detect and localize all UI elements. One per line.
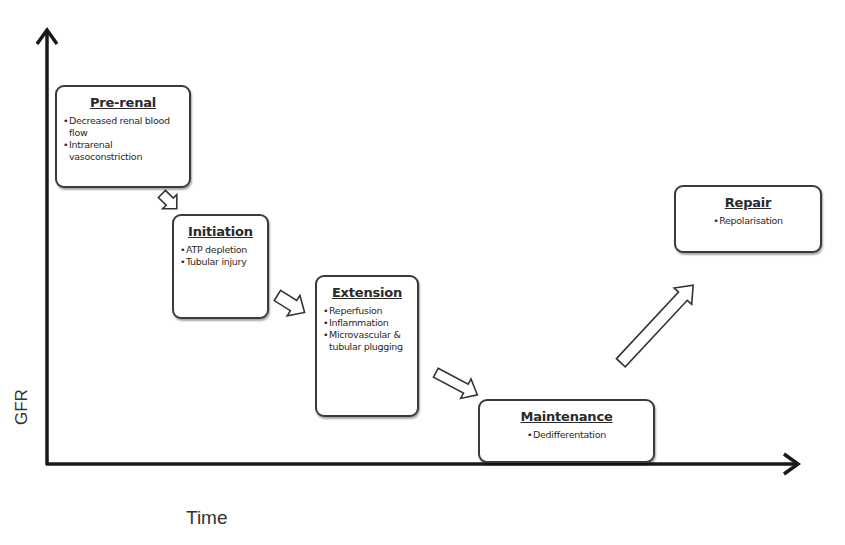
stage-item: Repolarisation [713, 215, 783, 227]
stage-item: Microvascular & tubular plugging [323, 329, 411, 353]
stage-box-repair: Repair Repolarisation [674, 185, 822, 253]
stage-title: Initiation [180, 224, 261, 239]
stage-box-maintenance: Maintenance Dedifferentation [478, 399, 655, 463]
stage-item: Decreased renal blood flow [63, 115, 183, 139]
stage-item: ATP depletion [180, 244, 261, 256]
stage-box-prerenal: Pre-renal Decreased renal blood flow Int… [55, 85, 191, 188]
stage-item: Intrarenal vasoconstriction [63, 139, 183, 163]
arrow-initiation-to-extension-icon [271, 285, 311, 322]
stage-item: Dedifferentation [527, 429, 606, 441]
stage-title: Maintenance [486, 409, 647, 424]
x-axis-label: Time [186, 507, 228, 529]
stage-item: Inflammation [323, 317, 411, 329]
stage-item: Tubular injury [180, 256, 261, 268]
stage-box-extension: Extension Reperfusion Inflammation Micro… [315, 275, 419, 417]
stage-title: Repair [682, 195, 814, 210]
stage-title: Pre-renal [63, 95, 183, 110]
arrow-maintenance-to-repair-icon [612, 277, 702, 371]
arrow-extension-to-maintenance-icon [431, 363, 483, 404]
y-axis-label: GFR [12, 389, 32, 425]
diagram-canvas [0, 0, 845, 545]
stage-box-initiation: Initiation ATP depletion Tubular injury [172, 214, 269, 319]
stage-title: Extension [323, 285, 411, 300]
arrow-prerenal-to-initiation-icon [155, 187, 184, 216]
stage-item: Reperfusion [323, 305, 411, 317]
